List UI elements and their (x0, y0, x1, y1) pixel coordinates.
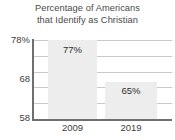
bar-label-2009: 77% (48, 44, 97, 55)
y-axis-line (32, 39, 34, 120)
y-tick-label-78: 78% (0, 35, 30, 45)
bar-chart: Percentage of Americans that Identify as… (0, 0, 175, 140)
y-tick-label-58: 58 (0, 113, 30, 123)
x-tick-label-2019: 2019 (105, 122, 157, 133)
x-tick-label-2009: 2009 (48, 122, 97, 133)
x-axis-line (32, 119, 172, 121)
y-axis-tick-labels: 78% 68 58 (0, 0, 30, 140)
y-tick-label-68: 68 (0, 74, 30, 84)
bar-label-2019: 65% (105, 85, 157, 96)
